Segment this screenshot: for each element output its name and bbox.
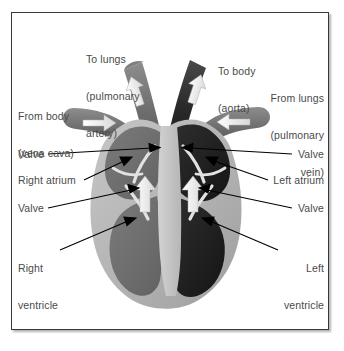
label-from-lungs-line1: From lungs (240, 92, 324, 104)
label-to-lungs-line1: To lungs (86, 53, 140, 65)
label-right-ventricle: Right ventricle (18, 238, 58, 336)
label-to-lungs-line2: (pulmonary (86, 90, 140, 102)
label-valve-upper-right: Valve (244, 148, 324, 160)
label-right-ventricle-line1: Right (18, 262, 58, 274)
label-from-lungs-line2: (pulmonary (240, 129, 324, 141)
label-valve-lower-right: Valve (244, 202, 324, 214)
diagram-canvas: To lungs (pulmonary artery) To body (aor… (0, 0, 344, 351)
label-left-ventricle: Left ventricle (244, 238, 324, 336)
label-right-ventricle-line2: ventricle (18, 299, 58, 311)
label-left-ventricle-line2: ventricle (244, 299, 324, 311)
label-to-lungs: To lungs (pulmonary artery) (86, 29, 140, 163)
label-from-body: From body (vena cava) (18, 86, 74, 184)
label-left-ventricle-line1: Left (244, 262, 324, 274)
label-right-atrium: Right atrium (18, 174, 76, 186)
label-left-atrium: Left atrium (236, 174, 324, 186)
label-valve-upper-left: Valve (18, 148, 44, 160)
label-valve-lower-left: Valve (18, 202, 44, 214)
label-from-body-line1: From body (18, 110, 74, 122)
label-to-lungs-line3: artery) (86, 127, 140, 139)
